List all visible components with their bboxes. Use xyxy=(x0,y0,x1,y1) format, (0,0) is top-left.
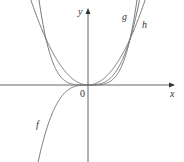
curve-label-h: h xyxy=(142,19,147,30)
origin-label: 0 xyxy=(80,88,85,99)
y-axis-label: y xyxy=(77,6,83,17)
y-axis-arrow-icon xyxy=(86,8,91,14)
curve-f xyxy=(37,0,141,162)
x-axis-label: x xyxy=(169,88,175,99)
power-functions-diagram: y x 0 g h f xyxy=(0,0,184,162)
curve-label-f: f xyxy=(36,119,40,130)
curve-label-g: g xyxy=(122,11,127,22)
x-axis-arrow-icon xyxy=(169,83,175,88)
